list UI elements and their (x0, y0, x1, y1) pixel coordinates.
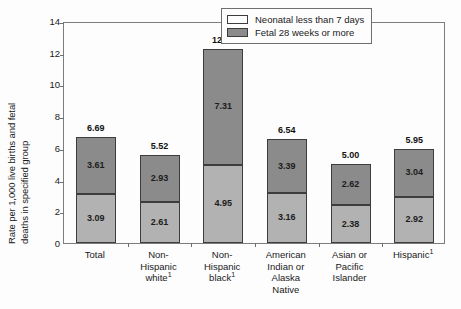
y-axis-tick-label: 6 (38, 144, 60, 154)
plot-area: 3.093.616.692.612.935.524.957.3112.223.1… (63, 22, 445, 244)
bar-segment-value-fetal: 2.92 (405, 215, 423, 224)
x-axis-category-label: AmericanIndian orAlaskaNative (254, 249, 318, 295)
x-axis-category-labels: TotalNon-Hispanicwhite1Non-Hispanicblack… (63, 249, 445, 307)
bar-group[interactable]: 4.957.3112.22 (203, 49, 243, 243)
bar-group[interactable]: 3.093.616.69 (76, 137, 116, 243)
bar-total-label: 5.95 (384, 136, 444, 145)
x-axis-category-label-line: Pacific (318, 261, 382, 273)
bar-group[interactable]: 3.163.396.54 (267, 139, 307, 243)
bar-total-label: 5.52 (130, 142, 190, 151)
chart-figure: Rate per 1,000 live births and fetal dea… (0, 0, 461, 309)
bar-segment-fetal[interactable]: 3.09 (76, 194, 116, 243)
x-axis-category-label: Non-Hispanicblack1 (190, 249, 254, 284)
legend-item-fetal: Fetal 28 weeks or more (227, 26, 364, 39)
x-axis-category-label-line: Non- (127, 249, 191, 261)
y-axis-tick-mark (60, 55, 64, 56)
x-axis-category-label-line: Indian or (254, 261, 318, 273)
x-axis-category-label-line: Alaska (254, 272, 318, 284)
bar-segment-neonatal[interactable]: 2.93 (140, 155, 180, 201)
bar-segment-value-fetal: 2.38 (342, 220, 360, 229)
bar-group[interactable]: 2.923.045.95 (394, 149, 434, 243)
x-axis-category-label-line: Non- (190, 249, 254, 261)
x-axis-category-label: Hispanic1 (381, 249, 445, 261)
bar-segment-fetal[interactable]: 3.16 (267, 193, 307, 243)
x-axis-tick-mark (128, 243, 129, 247)
x-axis-category-label-line: Hispanic (190, 261, 254, 273)
bar-segment-value-neonatal: 3.04 (405, 168, 423, 177)
x-axis-category-label-line: white1 (127, 272, 191, 284)
x-axis-category-label: Non-Hispanicwhite1 (127, 249, 191, 284)
x-axis-tick-mark (255, 243, 256, 247)
y-axis-tick-label: 14 (38, 17, 60, 27)
bar-segment-fetal[interactable]: 2.92 (394, 197, 434, 243)
bar-segment-neonatal[interactable]: 3.39 (267, 139, 307, 193)
x-axis-category-label-line: American (254, 249, 318, 261)
bar-segment-value-neonatal: 3.39 (278, 162, 296, 171)
x-axis-category-label-line: Native (254, 284, 318, 296)
bar-segment-value-fetal: 4.95 (214, 199, 232, 208)
bar-segment-value-neonatal: 2.93 (151, 174, 169, 183)
y-axis-tick-label: 0 (38, 239, 60, 249)
bar-segment-fetal[interactable]: 4.95 (203, 165, 243, 243)
x-axis-category-label: Total (63, 249, 127, 261)
y-axis-tick-mark (60, 118, 64, 119)
bar-segment-value-neonatal: 3.61 (87, 161, 105, 170)
y-axis-tick-label: 2 (38, 208, 60, 218)
legend-swatch-fetal-icon (227, 28, 248, 37)
bar-total-label: 6.69 (66, 124, 126, 133)
x-axis-category-label-line: Total (63, 249, 127, 261)
x-axis-category-label: Asian orPacificIslander (318, 249, 382, 284)
y-axis-tick-labels: 02468101214 (38, 22, 60, 244)
x-axis-tick-mark (382, 243, 383, 247)
y-axis-tick-mark (60, 213, 64, 214)
y-axis-tick-label: 10 (38, 81, 60, 91)
x-axis-category-label-line: Asian or (318, 249, 382, 261)
y-axis-title-line-1: Rate per 1,000 live births and fetal (6, 22, 17, 244)
bar-segment-neonatal[interactable]: 3.61 (76, 137, 116, 194)
bar-segment-fetal[interactable]: 2.61 (140, 202, 180, 243)
y-axis-title-line-2: deaths in specified group (19, 22, 30, 244)
x-axis-tick-mark (191, 243, 192, 247)
y-axis-tick-mark (60, 150, 64, 151)
x-axis-tick-mark (319, 243, 320, 247)
bar-segment-value-fetal: 3.09 (87, 214, 105, 223)
bar-group[interactable]: 2.382.625.00 (331, 164, 371, 243)
legend-label-fetal: Fetal 28 weeks or more (255, 27, 354, 38)
legend-swatch-neonatal-icon (227, 15, 248, 24)
bar-segment-value-neonatal: 7.31 (214, 102, 232, 111)
chart-legend: Neonatal less than 7 days Fetal 28 weeks… (221, 8, 372, 44)
bar-total-label: 5.00 (321, 151, 381, 160)
bar-segment-fetal[interactable]: 2.38 (331, 205, 371, 243)
y-axis-title: Rate per 1,000 live births and fetal dea… (4, 22, 38, 244)
bar-segment-neonatal[interactable]: 3.04 (394, 149, 434, 197)
bar-segment-value-neonatal: 2.62 (342, 180, 360, 189)
bar-segment-neonatal[interactable]: 7.31 (203, 49, 243, 165)
legend-item-neonatal: Neonatal less than 7 days (227, 13, 364, 26)
y-axis-tick-mark (60, 86, 64, 87)
y-axis-tick-label: 8 (38, 112, 60, 122)
bar-segment-value-fetal: 2.61 (151, 218, 169, 227)
bar-group[interactable]: 2.612.935.52 (140, 155, 180, 243)
bar-total-label: 6.54 (257, 126, 317, 135)
x-axis-category-label-line: black1 (190, 272, 254, 284)
bar-segment-neonatal[interactable]: 2.62 (331, 164, 371, 206)
x-axis-category-label-line: Hispanic (127, 261, 191, 273)
legend-label-neonatal: Neonatal less than 7 days (255, 14, 364, 25)
y-axis-tick-label: 4 (38, 176, 60, 186)
y-axis-tick-label: 12 (38, 49, 60, 59)
x-axis-category-label-line: Hispanic1 (381, 249, 445, 261)
bar-segment-value-fetal: 3.16 (278, 213, 296, 222)
y-axis-tick-mark (60, 182, 64, 183)
x-axis-category-label-line: Islander (318, 272, 382, 284)
y-axis-tick-mark (60, 23, 64, 24)
